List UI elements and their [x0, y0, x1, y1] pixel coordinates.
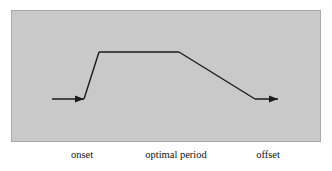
diagram-panel — [11, 10, 321, 142]
label-optimal-period: optimal period — [131, 148, 221, 161]
figure-page: onset optimal period offset — [0, 0, 332, 171]
label-offset: offset — [238, 148, 298, 161]
label-onset: onset — [52, 148, 112, 161]
